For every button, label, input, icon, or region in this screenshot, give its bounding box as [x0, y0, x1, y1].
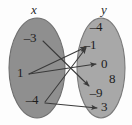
range-member-4: –9 — [84, 86, 108, 99]
domain-member-1: 1 — [8, 66, 32, 79]
range-member-2: 0 — [92, 57, 116, 70]
range-member-5: 3 — [92, 100, 116, 113]
range-set-label: y — [94, 3, 114, 16]
range-member-0: –4 — [84, 20, 108, 33]
domain-member-0: –3 — [18, 31, 42, 44]
mapping-diagram: x y –3 1 –4 –4 –1 0 8 –9 3 — [0, 0, 132, 125]
range-member-3: 8 — [100, 72, 124, 85]
domain-member-2: –4 — [20, 93, 44, 106]
domain-set-label: x — [24, 3, 44, 16]
range-member-1: –1 — [78, 38, 102, 51]
